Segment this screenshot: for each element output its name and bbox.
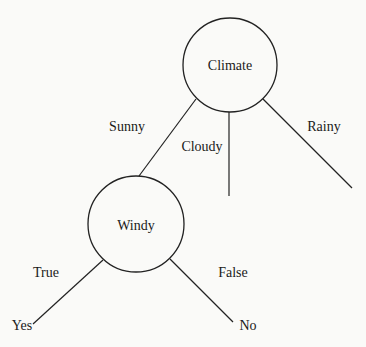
edge-label-cloudy: Cloudy (181, 139, 222, 154)
edge-sunny (139, 99, 196, 176)
leaf-no: No (239, 318, 256, 333)
edge-label-rainy: Rainy (307, 119, 340, 134)
edge-rainy (263, 99, 352, 188)
node-climate-label: Climate (208, 58, 252, 73)
node-windy-label: Windy (117, 218, 155, 233)
node-windy: Windy (88, 176, 184, 272)
decision-tree-diagram: Climate Windy Sunny Cloudy Rainy True Fa… (0, 0, 366, 347)
edge-label-sunny: Sunny (109, 119, 145, 134)
leaf-yes: Yes (12, 318, 32, 333)
node-climate: Climate (183, 18, 277, 112)
edge-label-false: False (218, 265, 248, 280)
edge-label-true: True (33, 265, 59, 280)
